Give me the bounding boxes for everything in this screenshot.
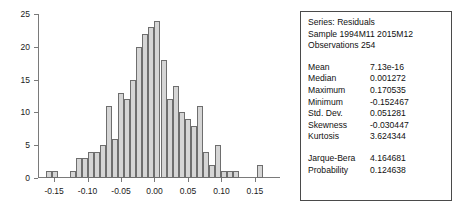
stat-value: -0.152467 — [370, 97, 409, 109]
stat-value: 0.001272 — [370, 73, 406, 85]
stat-row: Minimum-0.152467 — [308, 97, 451, 109]
x-axis: -0.15-0.10-0.050.000.050.100.15 — [0, 178, 292, 212]
stat-value: 3.624344 — [370, 131, 406, 143]
x-axis-tick-label: -0.05 — [111, 187, 130, 196]
stat-value: -0.030447 — [370, 120, 409, 132]
stat-label: Maximum — [308, 85, 370, 97]
stats-header-line: Sample 1994M11 2015M12 — [308, 29, 451, 41]
x-axis-tick-mark — [121, 178, 122, 182]
stat-label: Probability — [308, 165, 370, 177]
stat-value: 0.051281 — [370, 108, 406, 120]
stat-row: Median0.001272 — [308, 73, 451, 85]
y-axis-tick-label: 25 — [21, 10, 30, 19]
stats-spacer — [308, 52, 451, 62]
stat-row: Probability0.124638 — [308, 165, 451, 177]
histogram-chart-panel: 0510152025 -0.15-0.10-0.050.000.050.100.… — [0, 0, 292, 212]
stat-row: Std. Dev.0.051281 — [308, 108, 451, 120]
x-axis-tick-mark — [221, 178, 222, 182]
stat-label: Jarque-Bera — [308, 153, 370, 165]
stats-spacer-2 — [308, 143, 451, 153]
x-axis-tick-mark — [88, 178, 89, 182]
stats-test-rows: Jarque-Bera4.164681Probability0.124638 — [308, 153, 451, 176]
x-axis-tick-mark — [255, 178, 256, 182]
y-axis-tick-label: 15 — [21, 75, 30, 84]
x-axis-tick-label: 0.05 — [180, 187, 197, 196]
x-axis-tick-label: -0.10 — [78, 187, 97, 196]
stats-header-line: Observations 254 — [308, 40, 451, 52]
stat-label: Minimum — [308, 97, 370, 109]
descriptive-statistics-panel: Series: ResidualsSample 1994M11 2015M12O… — [300, 11, 452, 201]
x-axis-tick-label: 0.15 — [247, 187, 264, 196]
stats-header: Series: ResidualsSample 1994M11 2015M12O… — [308, 17, 451, 52]
stat-value: 0.170535 — [370, 85, 406, 97]
stat-label: Kurtosis — [308, 131, 370, 143]
histogram-bar — [257, 165, 263, 178]
stat-label: Mean — [308, 62, 370, 74]
stats-header-line: Series: Residuals — [308, 17, 451, 29]
y-axis-tick-label: 20 — [21, 43, 30, 52]
stat-row: Mean7.13e-16 — [308, 62, 451, 74]
x-axis-tick-label: 0.10 — [213, 187, 230, 196]
x-axis-tick-mark — [54, 178, 55, 182]
y-axis-tick-label: 10 — [21, 108, 30, 117]
stat-value: 7.13e-16 — [370, 62, 404, 74]
stat-row: Skewness-0.030447 — [308, 120, 451, 132]
x-axis-tick-mark — [188, 178, 189, 182]
stat-label: Std. Dev. — [308, 108, 370, 120]
stat-label: Skewness — [308, 120, 370, 132]
stat-row: Jarque-Bera4.164681 — [308, 153, 451, 165]
x-axis-tick-mark — [154, 178, 155, 182]
histogram-stats-figure: 0510152025 -0.15-0.10-0.050.000.050.100.… — [0, 0, 459, 212]
y-axis-tick-label: 5 — [25, 141, 30, 150]
stat-row: Maximum0.170535 — [308, 85, 451, 97]
x-axis-tick-label: -0.15 — [44, 187, 63, 196]
stat-row: Kurtosis3.624344 — [308, 131, 451, 143]
stat-value: 0.124638 — [370, 165, 406, 177]
stat-label: Median — [308, 73, 370, 85]
histogram-bars — [39, 14, 280, 178]
x-axis-tick-label: 0.00 — [146, 187, 163, 196]
stat-value: 4.164681 — [370, 153, 406, 165]
stats-rows: Mean7.13e-16Median0.001272Maximum0.17053… — [308, 62, 451, 143]
